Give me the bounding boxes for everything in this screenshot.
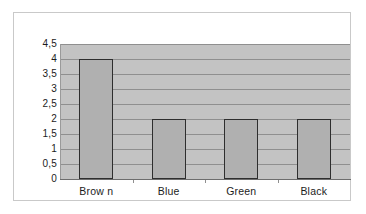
y-axis-tick-label: 4,5 bbox=[17, 39, 57, 49]
bar bbox=[224, 119, 258, 179]
y-axis-tick-label: 1,5 bbox=[17, 129, 57, 139]
x-axis-tick bbox=[205, 180, 206, 183]
y-axis-tick-label: 2 bbox=[17, 114, 57, 124]
x-axis-category-label: Blue bbox=[133, 185, 206, 198]
bar bbox=[297, 119, 331, 179]
plot-area bbox=[60, 44, 350, 179]
x-axis-category-label: Black bbox=[278, 185, 351, 198]
y-axis-tick-label: 2,5 bbox=[17, 99, 57, 109]
y-axis-tick-label: 1 bbox=[17, 144, 57, 154]
x-axis-tick bbox=[278, 180, 279, 183]
x-axis-category-label: Green bbox=[205, 185, 278, 198]
y-axis-tick-label: 0,5 bbox=[17, 159, 57, 169]
y-axis-line bbox=[60, 44, 61, 180]
x-axis-labels: Brow nBlueGreenBlack bbox=[60, 185, 350, 201]
y-axis-labels: 4,543,532,521,510,50 bbox=[14, 44, 57, 179]
y-axis-tick-label: 3 bbox=[17, 84, 57, 94]
x-axis-category-label: Brow n bbox=[60, 185, 133, 198]
bar bbox=[152, 119, 186, 179]
y-axis-tick-label: 3,5 bbox=[17, 69, 57, 79]
y-axis-tick-label: 4 bbox=[17, 54, 57, 64]
chart-frame: 4,543,532,521,510,50 Brow nBlueGreenBlac… bbox=[13, 12, 351, 201]
chart-page: 4,543,532,521,510,50 Brow nBlueGreenBlac… bbox=[0, 0, 366, 214]
bar bbox=[79, 59, 113, 179]
y-axis-tick-label: 0 bbox=[17, 174, 57, 184]
gridline bbox=[60, 44, 350, 45]
x-axis-tick bbox=[133, 180, 134, 183]
